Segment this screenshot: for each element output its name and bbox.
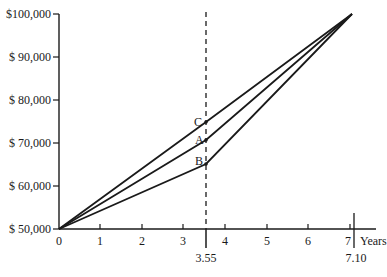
x-label-0: 0 (56, 234, 62, 248)
y-ticks (53, 14, 59, 229)
label-a: A (195, 133, 204, 147)
y-label-80000: $ 80,000 (9, 93, 51, 107)
x-label-2: 2 (139, 234, 145, 248)
chart: $100,000 $ 90,000 $ 80,000 $ 70,000 $ 60… (0, 0, 387, 277)
marker-7-10-label: 7.10 (346, 251, 367, 265)
y-label-50000: $ 50,000 (9, 222, 51, 236)
label-b: B (195, 154, 203, 168)
label-c: C (194, 115, 202, 129)
x-axis-title: Years (360, 234, 387, 248)
y-label-90000: $ 90,000 (9, 50, 51, 64)
x-label-1: 1 (97, 234, 103, 248)
point-c (204, 120, 208, 124)
y-label-70000: $ 70,000 (9, 136, 51, 150)
y-label-100000: $100,000 (6, 7, 51, 21)
y-label-60000: $ 60,000 (9, 179, 51, 193)
marker-3-55-label: 3.55 (196, 251, 217, 265)
x-label-5: 5 (264, 234, 270, 248)
point-b (204, 162, 208, 166)
x-tick-labels: 0 1 2 3 4 5 6 7 (56, 234, 351, 248)
point-a (204, 138, 208, 142)
x-ticks (100, 224, 350, 229)
x-label-4: 4 (222, 234, 228, 248)
x-label-3: 3 (180, 234, 186, 248)
x-label-6: 6 (305, 234, 311, 248)
y-tick-labels: $100,000 $ 90,000 $ 80,000 $ 70,000 $ 60… (6, 7, 51, 236)
x-label-7: 7 (345, 234, 351, 248)
